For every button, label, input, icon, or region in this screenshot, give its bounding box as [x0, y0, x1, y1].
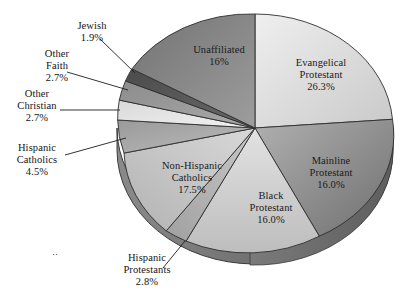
slice-label-evangelical-value: 26.3% [274, 81, 368, 93]
slice-label-other-faith-value: 2.7% [20, 72, 94, 84]
slice-label-hispanic-protestants-value: 2.8% [98, 276, 196, 288]
slice-label-jewish: Jewish 1.9% [54, 20, 130, 44]
slice-label-other-christian-value: 2.7% [0, 112, 76, 124]
slice-label-black-protestant-line2: Protestant [228, 202, 314, 214]
slice-label-hispanic-catholics-line1: Hispanic [0, 142, 78, 154]
slice-label-evangelical-line2: Protestant [274, 69, 368, 81]
slice-label-non-hispanic-catholics: Non-Hispanic Catholics 17.5% [140, 160, 244, 195]
slice-label-non-hispanic-line1: Non-Hispanic [140, 160, 244, 172]
slice-label-non-hispanic-line2: Catholics [140, 172, 244, 184]
slice-label-other-christian: Other Christian 2.7% [0, 88, 76, 123]
slice-label-jewish-value: 1.9% [54, 32, 130, 44]
pie-chart-figure: Unaffiliated 16% Evangelical Protestant … [0, 0, 412, 299]
slice-label-black-protestant: Black Protestant 16.0% [228, 190, 314, 225]
slice-label-unaffiliated-value: 16% [172, 56, 266, 68]
slice-label-hispanic-catholics-line2: Catholics [0, 154, 78, 166]
slice-label-hispanic-catholics-value: 4.5% [0, 166, 78, 178]
slice-label-non-hispanic-value: 17.5% [140, 184, 244, 196]
slice-label-other-christian-line2: Christian [0, 100, 76, 112]
scan-artifact-mark: ‥ [52, 248, 60, 256]
slice-label-other-christian-line1: Other [0, 88, 76, 100]
slice-label-other-faith: Other Faith 2.7% [20, 48, 94, 83]
slice-label-mainline-protestant: Mainline Protestant 16.0% [284, 155, 378, 190]
leader-line-jewish [100, 39, 135, 73]
slice-label-hispanic-catholics: Hispanic Catholics 4.5% [0, 142, 78, 177]
slice-label-jewish-name: Jewish [54, 20, 130, 32]
slice-label-hispanic-protestants-line2: Protestants [98, 264, 196, 276]
slice-label-mainline-value: 16.0% [284, 179, 378, 191]
slice-label-mainline-line1: Mainline [284, 155, 378, 167]
slice-label-hispanic-protestants: Hispanic Protestants 2.8% [98, 252, 196, 287]
slice-label-unaffiliated-name: Unaffiliated [172, 44, 266, 56]
slice-label-evangelical-protestant: Evangelical Protestant 26.3% [274, 57, 368, 92]
slice-label-evangelical-line1: Evangelical [274, 57, 368, 69]
slice-label-other-faith-line2: Faith [20, 60, 94, 72]
slice-label-hispanic-protestants-line1: Hispanic [98, 252, 196, 264]
slice-label-black-protestant-value: 16.0% [228, 214, 314, 226]
slice-label-other-faith-line1: Other [20, 48, 94, 60]
slice-label-mainline-line2: Protestant [284, 167, 378, 179]
slice-label-unaffiliated: Unaffiliated 16% [172, 44, 266, 68]
